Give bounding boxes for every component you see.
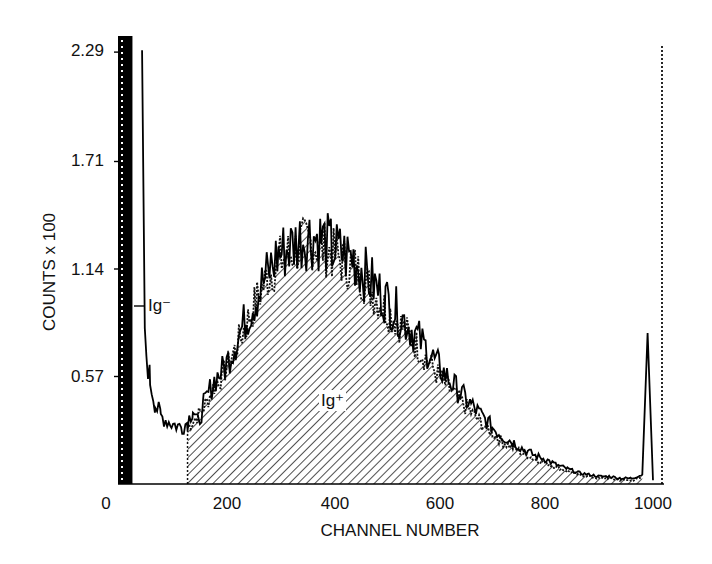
y-tick-label: 0.57 (44, 367, 104, 387)
y-tick-label: 2.29 (44, 41, 104, 61)
x-tick-label: 800 (515, 494, 575, 514)
y-tick-label: 1.71 (44, 151, 104, 171)
histogram-plot (0, 0, 712, 564)
x-axis-title: CHANNEL NUMBER (290, 521, 510, 541)
x-tick-label: 200 (197, 494, 257, 514)
x-tick-label: 400 (305, 494, 365, 514)
x-tick-label: 0 (76, 494, 136, 514)
ig-minus-annotation: Ig⁻ (146, 295, 173, 316)
y-axis-title: COUNTS x 100 (40, 192, 60, 352)
x-tick-label: 1000 (623, 494, 683, 514)
x-tick-label: 600 (410, 494, 470, 514)
ig-plus-annotation: Ig⁺ (319, 390, 346, 411)
